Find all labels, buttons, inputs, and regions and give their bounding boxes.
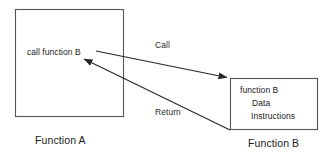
- diagram-text-layer: call function B function B Data Instruct…: [0, 0, 334, 161]
- return-arrow-label: Return: [155, 108, 181, 117]
- callee-caption: Function B: [248, 138, 299, 149]
- callee-line-instructions: Instructions: [251, 112, 295, 121]
- function-call-diagram: call function B function B Data Instruct…: [0, 0, 334, 161]
- caller-box-label: call function B: [27, 48, 81, 57]
- callee-line-function-b: function B: [240, 86, 278, 95]
- call-arrow-label: Call: [155, 41, 170, 50]
- callee-line-data: Data: [252, 99, 270, 108]
- caller-caption: Function A: [35, 135, 86, 146]
